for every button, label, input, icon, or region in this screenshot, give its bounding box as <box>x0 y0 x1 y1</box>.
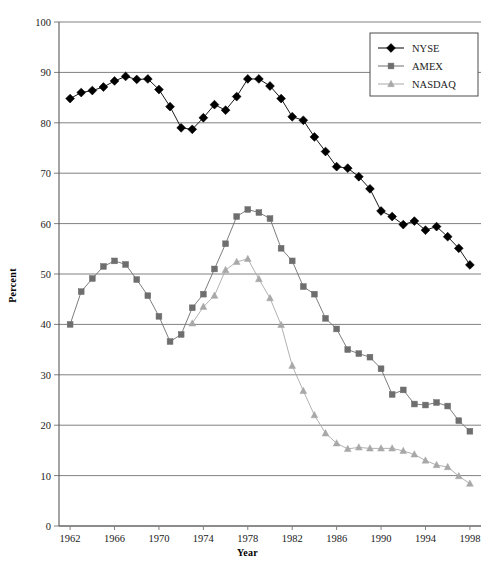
data-point-marker <box>77 88 86 97</box>
data-point-marker <box>123 262 129 268</box>
x-tick-label: 1974 <box>193 533 215 544</box>
data-point-marker <box>244 255 251 261</box>
data-point-marker <box>289 362 296 368</box>
data-point-marker <box>378 445 385 451</box>
data-point-marker <box>389 445 396 451</box>
x-tick-label: 1970 <box>148 533 169 544</box>
data-point-marker <box>278 245 284 251</box>
x-tick-label: 1990 <box>371 533 392 544</box>
data-point-marker <box>166 102 175 111</box>
data-point-marker <box>378 366 384 372</box>
data-point-marker <box>300 284 306 290</box>
y-tick-label: 50 <box>41 269 52 280</box>
y-tick-label: 20 <box>41 420 52 431</box>
x-tick-label: 1994 <box>415 533 437 544</box>
x-axis-title: Year <box>0 547 495 558</box>
legend-label: NYSE <box>412 43 439 54</box>
data-point-marker <box>267 294 274 300</box>
series-nyse <box>66 72 475 269</box>
y-tick-label: 60 <box>41 219 52 230</box>
data-point-marker <box>212 266 218 272</box>
data-point-marker <box>465 261 474 270</box>
series-line-amex <box>70 209 470 431</box>
data-point-marker <box>411 401 417 407</box>
data-point-marker <box>389 392 395 398</box>
data-point-marker <box>445 403 451 409</box>
data-point-marker <box>356 351 362 357</box>
data-point-marker <box>67 321 73 327</box>
data-point-marker <box>134 277 140 283</box>
data-point-marker <box>254 75 263 84</box>
y-tick-label: 0 <box>46 521 51 532</box>
data-point-marker <box>422 457 429 463</box>
series-amex <box>67 207 473 435</box>
chart-container: 0102030405060708090100196219661970197419… <box>0 0 495 570</box>
series-line-nyse <box>70 76 470 265</box>
data-point-marker <box>78 289 84 295</box>
data-point-marker <box>200 291 206 297</box>
data-point-marker <box>189 305 195 311</box>
x-tick-label: 1998 <box>459 533 480 544</box>
series-line-nasdaq <box>192 259 470 484</box>
data-point-marker <box>255 275 262 281</box>
data-point-marker <box>88 86 97 95</box>
x-tick-label: 1986 <box>326 533 347 544</box>
chart-legend: NYSEAMEXNASDAQ <box>370 33 478 96</box>
data-point-marker <box>322 430 329 436</box>
data-point-marker <box>456 418 462 424</box>
data-point-marker <box>312 291 318 297</box>
data-point-marker <box>99 83 108 92</box>
data-point-marker <box>466 480 473 486</box>
data-point-marker <box>245 207 251 213</box>
data-point-marker <box>321 147 330 156</box>
data-point-marker <box>367 354 373 360</box>
data-point-marker <box>222 266 229 272</box>
data-point-marker <box>132 75 141 84</box>
data-point-marker <box>388 63 394 69</box>
data-point-marker <box>400 387 406 393</box>
data-point-marker <box>177 123 186 132</box>
data-point-marker <box>289 258 295 264</box>
data-point-marker <box>423 402 429 408</box>
data-point-marker <box>89 276 95 282</box>
data-point-marker <box>345 347 351 353</box>
data-point-marker <box>189 320 196 326</box>
data-point-marker <box>211 292 218 298</box>
x-tick-label: 1962 <box>60 533 81 544</box>
data-point-marker <box>388 212 397 221</box>
data-point-marker <box>299 116 308 125</box>
data-point-marker <box>300 387 307 393</box>
data-point-marker <box>334 326 340 332</box>
y-tick-label: 70 <box>41 168 52 179</box>
legend-label: AMEX <box>412 61 443 72</box>
data-point-marker <box>467 428 473 434</box>
data-point-marker <box>110 77 119 86</box>
data-point-marker <box>288 112 297 121</box>
data-point-marker <box>178 332 184 338</box>
x-ticks-group: 1962196619701974197819821986199019941998 <box>60 526 481 544</box>
y-tick-label: 10 <box>41 471 52 482</box>
data-point-marker <box>310 133 319 142</box>
y-tick-label: 40 <box>41 319 52 330</box>
data-point-marker <box>101 264 107 270</box>
y-tick-label: 90 <box>41 67 52 78</box>
data-point-marker <box>145 293 151 299</box>
data-point-marker <box>343 164 352 173</box>
data-point-marker <box>121 72 130 81</box>
data-point-marker <box>377 207 386 216</box>
data-point-marker <box>399 220 408 229</box>
data-point-marker <box>234 214 240 220</box>
series-nasdaq <box>189 255 473 486</box>
data-point-marker <box>332 162 341 171</box>
data-point-marker <box>223 241 229 247</box>
data-point-marker <box>112 258 118 264</box>
data-point-marker <box>256 210 262 216</box>
data-point-marker <box>434 400 440 406</box>
y-tick-label: 100 <box>35 17 51 28</box>
data-point-marker <box>323 315 329 321</box>
line-chart-plot: 0102030405060708090100196219661970197419… <box>0 0 495 570</box>
x-tick-label: 1982 <box>282 533 303 544</box>
data-point-marker <box>311 411 318 417</box>
x-tick-label: 1966 <box>104 533 125 544</box>
data-point-marker <box>156 313 162 319</box>
